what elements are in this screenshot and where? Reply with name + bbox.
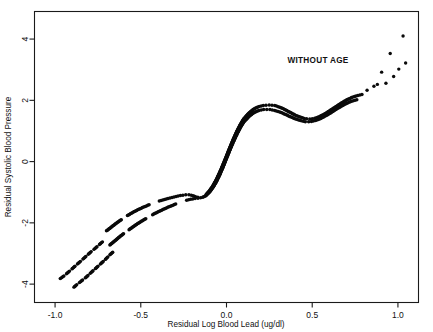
data-point — [365, 89, 368, 92]
data-point — [111, 251, 114, 254]
y-tick-label: -4 — [20, 280, 30, 288]
data-point — [90, 250, 93, 253]
data-point — [404, 61, 407, 64]
x-axis-ticks: -1.0-0.50.00.51.0 — [48, 303, 404, 320]
y-tick-label: 2 — [20, 98, 30, 103]
y-axis-ticks: 420-2-4 — [20, 36, 35, 287]
y-tick-label: -2 — [20, 219, 30, 227]
data-point — [397, 67, 400, 70]
x-tick-label: 0.5 — [306, 310, 318, 320]
data-point — [147, 203, 151, 207]
data-point — [265, 108, 269, 112]
data-point — [372, 85, 375, 88]
x-tick-label: -0.5 — [133, 310, 148, 320]
data-point — [122, 232, 126, 236]
data-point — [62, 274, 65, 277]
y-tick-label: 4 — [20, 36, 30, 41]
data-point — [101, 240, 104, 243]
data-point — [264, 103, 268, 107]
data-point — [384, 81, 387, 84]
y-axis-title: Residual Systolic Blood Pressure — [4, 96, 13, 217]
data-point — [144, 217, 148, 221]
data-point — [401, 34, 404, 37]
data-point — [380, 70, 383, 73]
y-tick-label: 0 — [20, 159, 30, 164]
annotation-without-age: WITHOUT AGE — [287, 56, 348, 65]
x-axis-title: Residual Log Blood Lead (ug/dl) — [168, 320, 285, 329]
x-tick-label: 1.0 — [392, 310, 404, 320]
x-tick-label: -1.0 — [48, 310, 63, 320]
data-point — [174, 202, 178, 206]
data-point — [262, 108, 266, 112]
plot-canvas: -1.0-0.50.00.51.0 420-2-4 WITHOUT AGE Re… — [0, 0, 433, 332]
data-point — [389, 52, 392, 55]
x-tick-label: 0.0 — [221, 310, 233, 320]
data-point — [304, 120, 308, 124]
data-point — [355, 98, 359, 102]
chart-figure: -1.0-0.50.00.51.0 420-2-4 WITHOUT AGE Re… — [0, 0, 433, 332]
data-point — [184, 193, 188, 197]
data-point — [305, 117, 309, 121]
data-point — [392, 75, 395, 78]
data-point — [120, 218, 124, 222]
data-point — [376, 83, 379, 86]
data-point — [81, 278, 84, 281]
data-point — [360, 93, 364, 97]
